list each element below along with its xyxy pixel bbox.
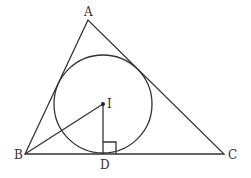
geometry-diagram: A B C I D <box>0 0 251 178</box>
label-d: D <box>100 158 110 172</box>
label-b: B <box>14 148 23 162</box>
label-a: A <box>83 5 93 19</box>
triangle-abc <box>25 20 224 154</box>
diagram-svg: A B C I D <box>0 0 251 178</box>
label-i: I <box>107 97 112 111</box>
incenter-point <box>101 102 105 106</box>
label-c: C <box>228 148 237 162</box>
